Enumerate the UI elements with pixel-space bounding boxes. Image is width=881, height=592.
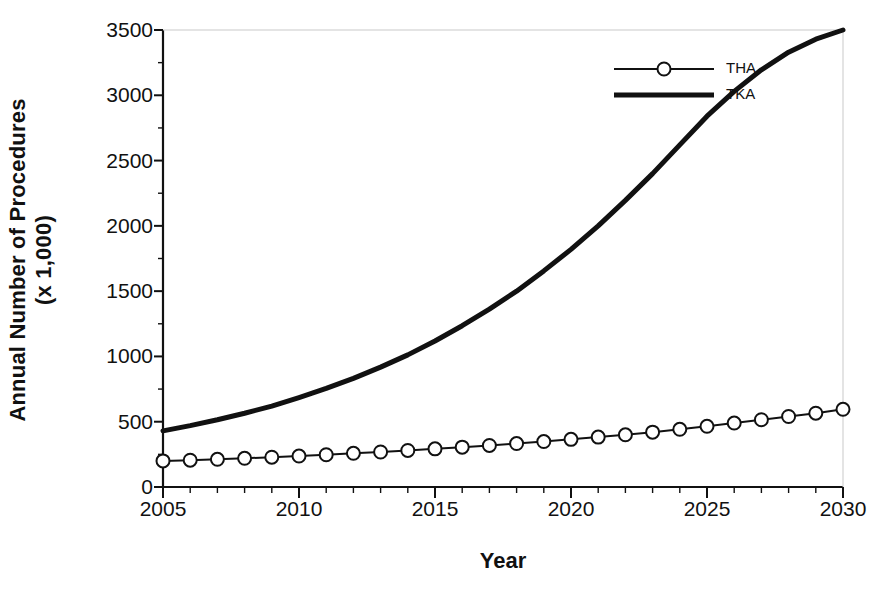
- series-marker-tha: [347, 447, 360, 460]
- series-marker-tha: [809, 407, 822, 420]
- series-marker-tha: [293, 450, 306, 463]
- series-marker-tha: [184, 454, 197, 467]
- series-marker-tha: [510, 437, 523, 450]
- series-marker-tha: [592, 431, 605, 444]
- series-marker-tha: [837, 403, 850, 416]
- legend-label-tha: THA: [726, 59, 756, 76]
- series-marker-tha: [456, 441, 469, 454]
- legend-swatch-marker-tha: [658, 63, 671, 76]
- series-marker-tha: [483, 439, 496, 452]
- series-marker-tha: [157, 454, 170, 467]
- chart-legend: [614, 63, 714, 96]
- series-marker-tha: [265, 451, 278, 464]
- series-marker-tha: [238, 452, 251, 465]
- series-marker-tha: [619, 428, 632, 441]
- series-marker-tha: [211, 453, 224, 466]
- series-marker-tha: [401, 444, 414, 457]
- series-marker-tha: [537, 435, 550, 448]
- series-marker-tha: [673, 423, 686, 436]
- legend-label-tka: TKA: [726, 85, 755, 102]
- series-marker-tha: [565, 433, 578, 446]
- series-marker-tha: [782, 410, 795, 423]
- series-marker-tha: [755, 413, 768, 426]
- series-marker-tha: [429, 442, 442, 455]
- series-marker-tha: [728, 417, 741, 430]
- series-marker-tha: [320, 448, 333, 461]
- series-marker-tha: [374, 446, 387, 459]
- series-marker-tha: [701, 420, 714, 433]
- chart-figure: Annual Number of Procedures (x 1,000) 05…: [0, 0, 881, 592]
- series-marker-tha: [646, 426, 659, 439]
- series-line-tha: [163, 409, 843, 461]
